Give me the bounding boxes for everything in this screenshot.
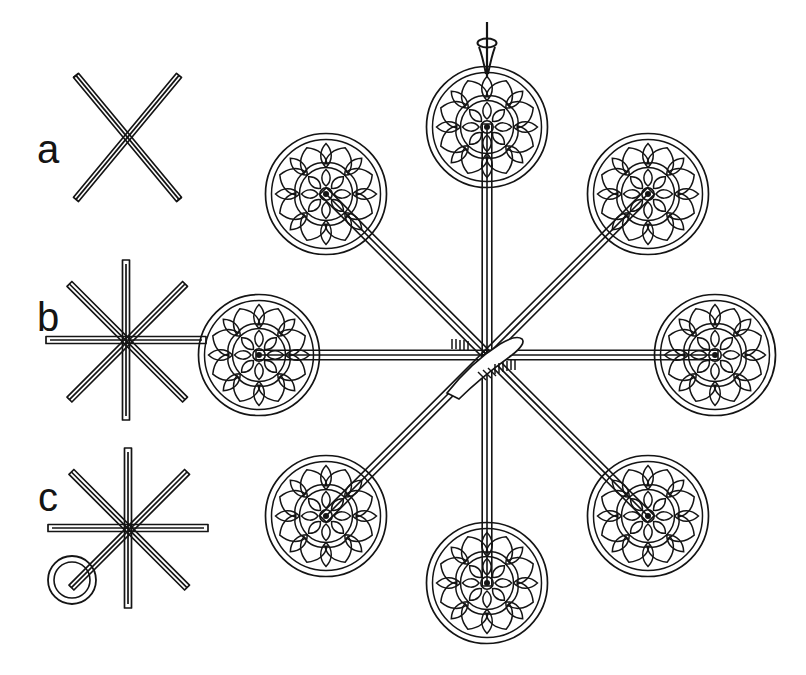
- figure-c-label: c: [38, 475, 58, 519]
- suspension-loop-icon[interactable]: [478, 22, 497, 78]
- figure-a[interactable]: a: [37, 73, 182, 201]
- figure-b-label: b: [37, 295, 59, 339]
- figure-b[interactable]: b: [37, 260, 206, 420]
- main-object[interactable]: [199, 22, 776, 644]
- figure-c-suspension-ring[interactable]: [48, 556, 96, 604]
- disc-upper-left[interactable]: [266, 134, 387, 255]
- disc-upper-right[interactable]: [588, 134, 709, 255]
- figure-a-label: a: [37, 127, 60, 171]
- plate-canvas: a: [0, 0, 806, 675]
- disc-lower-left[interactable]: [266, 456, 387, 577]
- drawing-plate: a: [0, 0, 806, 675]
- disc-lower-right[interactable]: [588, 456, 709, 577]
- figure-c[interactable]: c: [38, 448, 208, 608]
